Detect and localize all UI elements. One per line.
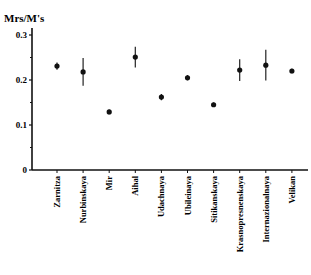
x-tick-label: Udachnaya [156,175,166,217]
x-tick-label: Zarnitza [52,175,62,207]
x-tick-label: Aihal [130,175,140,195]
error-bar-chart: Mrs/M's00.10.20.3ZarnitzaNurbinskayaMirA… [0,0,311,275]
x-tick-label: Velikan [287,176,297,204]
data-point [107,109,112,114]
data-point [133,54,138,59]
y-tick-label: 0.2 [16,75,28,85]
data-point [159,95,164,100]
data-point [289,68,294,73]
x-tick-label: Mir [104,176,114,190]
data-point [81,69,86,74]
data-point [211,102,216,107]
y-tick-label: 0.3 [16,30,28,40]
x-tick-label: Nurbinskaya [78,175,88,223]
data-point [54,63,59,68]
y-axis-label: Mrs/M's [4,12,45,24]
data-point [185,75,190,80]
y-tick-label: 0 [23,165,28,175]
x-tick-label: Internazionalnaya [261,175,271,242]
x-tick-label: Sitikanskaya [209,175,219,223]
x-tick-label: Ubileinaya [183,175,193,215]
data-point [237,68,242,73]
data-point [263,63,268,68]
x-tick-label: Krasnopresnenskaya [235,175,245,252]
y-tick-label: 0.1 [16,120,28,130]
